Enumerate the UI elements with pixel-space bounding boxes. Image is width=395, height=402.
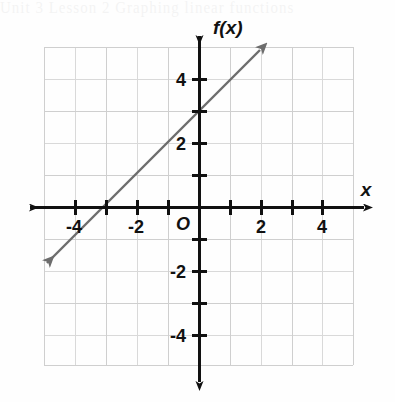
x-axis-label: x — [360, 179, 373, 200]
origin-label: O — [176, 214, 190, 234]
y-tick-label-neg4: -4 — [170, 326, 186, 346]
y-tick-label-4: 4 — [176, 70, 186, 90]
y-tick-label-neg2: -2 — [170, 262, 186, 282]
x-tick-label-neg2: -2 — [128, 217, 144, 237]
coordinate-plane: -4 -2 2 4 4 2 -2 -4 O f(x) x — [0, 0, 395, 402]
y-tick-label-2: 2 — [176, 134, 186, 154]
x-tick-label-4: 4 — [317, 217, 327, 237]
x-tick-label-2: 2 — [256, 217, 266, 237]
x-tick-label-neg4: -4 — [66, 217, 82, 237]
y-axis-label: f(x) — [213, 17, 243, 38]
graph-figure: Unit 3 Lesson 2 Graphing linear function… — [0, 0, 395, 402]
